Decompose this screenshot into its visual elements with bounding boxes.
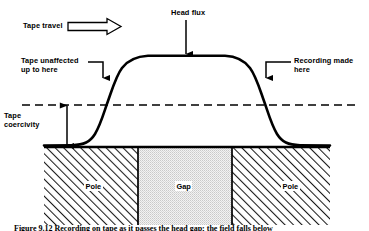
- tape-coercivity-label: Tape coercivity: [4, 111, 40, 129]
- tape-travel-arrow: [68, 19, 121, 35]
- head-flux-label: Head flux: [171, 8, 205, 17]
- recording-head-diagram: [0, 0, 369, 231]
- pole-right-label: Pole: [281, 181, 300, 191]
- figure-root: Tape travel Head flux Tape unaffected up…: [0, 0, 369, 231]
- recording-made-label: Recording made here: [294, 56, 353, 74]
- tape-travel-label: Tape travel: [23, 21, 63, 30]
- gap-label: Gap: [175, 181, 192, 191]
- tape-unaffected-leader: [88, 62, 103, 78]
- head-flux-curve: [44, 56, 330, 146]
- figure-caption: Figure 9.12 Recording on tape as it pass…: [14, 225, 273, 231]
- pole-left-label: Pole: [84, 181, 103, 191]
- figure-caption-strip: Figure 9.12 Recording on tape as it pass…: [0, 225, 369, 231]
- recording-made-leader: [266, 62, 291, 78]
- tape-unaffected-label: Tape unaffected up to here: [21, 56, 79, 74]
